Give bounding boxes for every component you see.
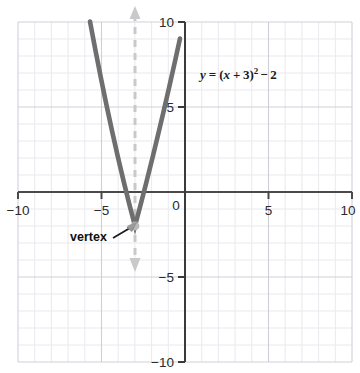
y-tick-label-ten: 10: [159, 15, 174, 30]
parabola-graph-figure: −10 −5 0 5 10 10 5 −5 −10 vertex y=(x+3)…: [0, 0, 360, 373]
equation-label: y=(x+3)2−2: [198, 66, 277, 82]
y-tick-label-neg-five: −5: [159, 270, 174, 285]
equation-lhs: y: [198, 67, 206, 82]
equation-equals: =: [209, 67, 216, 82]
x-tick-label-five: 5: [265, 203, 273, 218]
chart-canvas: −10 −5 0 5 10 10 5 −5 −10 vertex y=(x+3)…: [0, 0, 360, 373]
x-tick-label-zero: 0: [172, 198, 180, 213]
x-tick-label-ten: 10: [340, 203, 355, 218]
equation-variable: x: [223, 67, 231, 82]
y-tick-label-five: 5: [166, 100, 174, 115]
equation-minus: −: [260, 67, 267, 82]
x-tick-label-neg-five: −5: [94, 203, 109, 218]
x-tick-label-neg-ten: −10: [7, 203, 30, 218]
vertex-annotation-label: vertex: [70, 230, 107, 244]
equation-plus: +: [233, 67, 240, 82]
equation-exponent: 2: [254, 66, 259, 76]
equation-offset: 2: [270, 67, 277, 82]
y-tick-label-neg-ten: −10: [151, 355, 174, 370]
